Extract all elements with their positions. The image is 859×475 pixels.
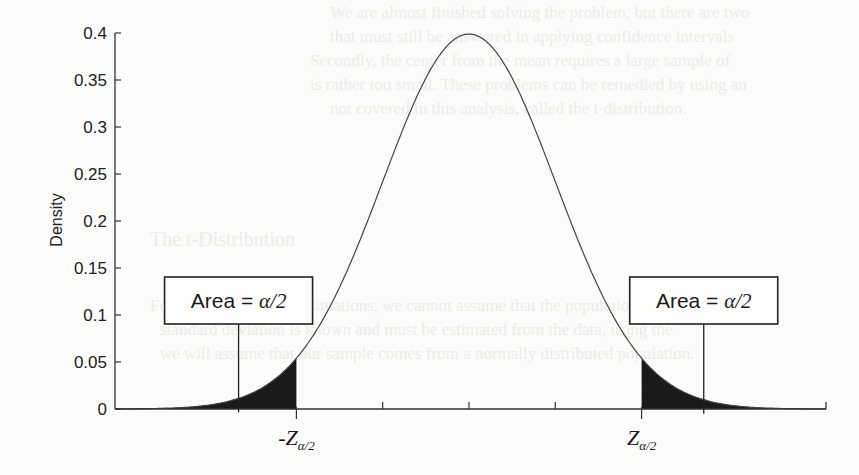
- y-tick-label: 0.25: [74, 165, 107, 184]
- y-tick-label: 0.1: [83, 306, 107, 325]
- density-curve: [115, 34, 826, 409]
- y-tick-label: 0.2: [83, 212, 107, 231]
- axes: 00.050.10.150.20.250.30.350.4: [74, 24, 826, 419]
- y-axis-label: Density: [48, 193, 65, 246]
- critical-value-labels: -Zα/2Zα/2: [278, 425, 657, 453]
- y-tick-label: 0.05: [74, 353, 107, 372]
- z-alpha-half-label: Zα/2: [627, 425, 657, 453]
- y-tick-label: 0.4: [83, 24, 107, 43]
- y-tick-label: 0.3: [83, 118, 107, 137]
- y-tick-label: 0.35: [74, 71, 107, 90]
- area-annotation-label: Area = α/2: [656, 289, 752, 313]
- y-tick-label: 0: [98, 400, 107, 419]
- y-tick-label: 0.15: [74, 259, 107, 278]
- area-annotation-label: Area = α/2: [191, 289, 287, 313]
- tail-shading: [115, 358, 827, 409]
- normal-density-chart: 00.050.10.150.20.250.30.350.4 Density Ar…: [0, 0, 859, 475]
- neg-z-alpha-half-label: -Zα/2: [278, 425, 315, 453]
